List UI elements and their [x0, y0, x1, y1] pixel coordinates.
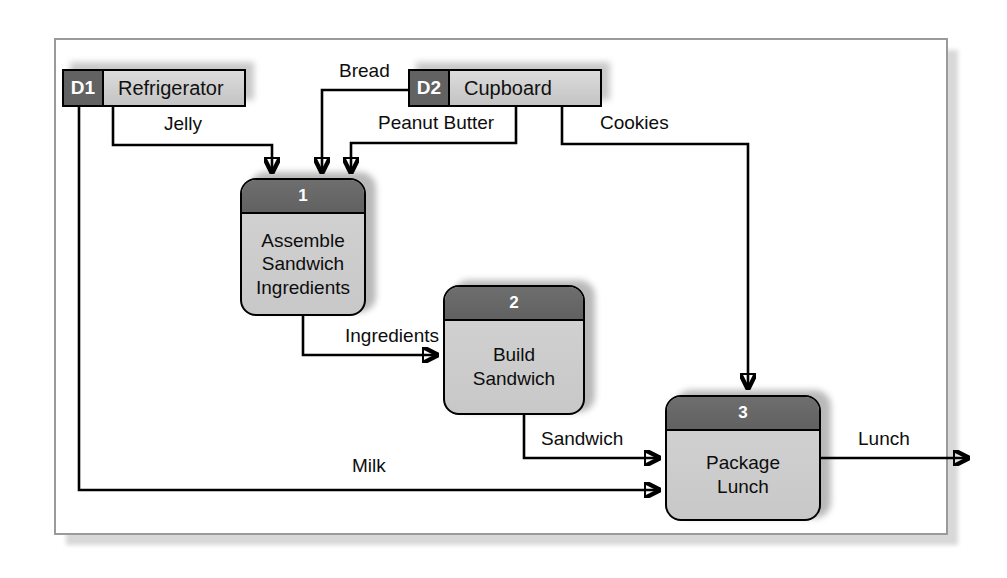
data-store-d1-id: D1 [64, 71, 104, 105]
diagram-canvas: D1 Refrigerator D2 Cupboard 1 Assemble S… [0, 0, 1007, 578]
process-2-name-line-1: Build [493, 343, 535, 367]
process-3-number: 3 [667, 397, 819, 431]
process-2[interactable]: 2 Build Sandwich [443, 285, 585, 415]
data-store-d1-name: Refrigerator [104, 71, 244, 105]
process-2-name: Build Sandwich [445, 321, 583, 413]
data-store-d2-name: Cupboard [450, 71, 600, 105]
flow-label-jelly: Jelly [164, 113, 202, 135]
process-2-number: 2 [445, 287, 583, 321]
process-1-name: Assemble Sandwich Ingredients [242, 214, 364, 314]
process-1[interactable]: 1 Assemble Sandwich Ingredients [240, 178, 366, 316]
process-2-name-line-2: Sandwich [473, 367, 555, 391]
process-3-name-line-2: Lunch [717, 475, 769, 499]
flow-label-bread: Bread [339, 60, 390, 82]
flow-label-peanut-butter: Peanut Butter [378, 112, 494, 134]
flow-label-sandwich: Sandwich [541, 428, 623, 450]
process-3-name-line-1: Package [706, 451, 780, 475]
flow-label-lunch: Lunch [858, 428, 910, 450]
data-store-d2-id: D2 [410, 71, 450, 105]
flow-label-cookies: Cookies [600, 112, 669, 134]
process-3-name: Package Lunch [667, 431, 819, 519]
process-1-name-line-1: Assemble [261, 229, 344, 253]
flow-label-milk: Milk [352, 455, 386, 477]
process-1-name-line-3: Ingredients [256, 276, 350, 300]
flow-label-ingredients: Ingredients [345, 325, 439, 347]
process-3[interactable]: 3 Package Lunch [665, 395, 821, 521]
process-1-name-line-2: Sandwich [262, 252, 344, 276]
data-store-d1[interactable]: D1 Refrigerator [62, 69, 246, 107]
data-store-d2[interactable]: D2 Cupboard [408, 69, 602, 107]
process-1-number: 1 [242, 180, 364, 214]
